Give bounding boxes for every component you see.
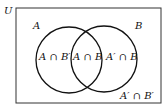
- venn-diagram: U A B A ∩ B′ A ∩ B A′ ∩ B A′ ∩ B′: [0, 0, 166, 111]
- region-neither: A′ ∩ B′: [119, 90, 155, 101]
- region-a-only: A ∩ B′: [38, 51, 71, 62]
- set-b-label: B: [134, 20, 142, 31]
- region-b-only: A′ ∩ B: [105, 51, 138, 62]
- set-a-label: A: [32, 20, 40, 31]
- universe-label: U: [4, 5, 13, 16]
- region-both: A ∩ B: [72, 51, 102, 62]
